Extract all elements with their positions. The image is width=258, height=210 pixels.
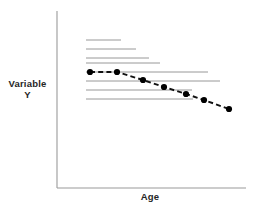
- chart-axes: [57, 11, 246, 188]
- data-point-marker-4: [161, 84, 167, 90]
- chart-figure: Variable Y Age: [0, 0, 258, 210]
- chart-canvas: [0, 0, 258, 210]
- data-point-marker-5: [183, 91, 189, 97]
- data-point-marker-7: [226, 106, 232, 112]
- trend-line-group: [90, 72, 229, 109]
- data-point-marker-3: [140, 77, 146, 83]
- x-axis-label: Age: [100, 191, 200, 202]
- y-axis-label: Variable Y: [0, 78, 55, 100]
- trend-dashed-line: [90, 72, 229, 109]
- data-point-marker-1: [87, 69, 93, 75]
- data-point-markers-group: [87, 69, 232, 112]
- data-point-marker-6: [201, 97, 207, 103]
- cohort-lines-group: [86, 40, 220, 99]
- data-point-marker-2: [114, 69, 120, 75]
